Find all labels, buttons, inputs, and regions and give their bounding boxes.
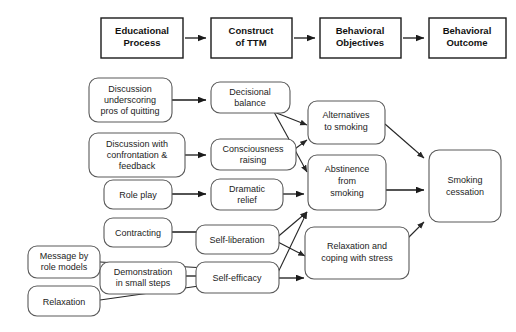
node-label-line2: in small steps [116,278,171,288]
node-discussion-confrontation[interactable]: Discussion with confrontation & feedback [89,133,185,177]
node-abstinence-from-smoking[interactable]: Abstinence from smoking [308,155,386,210]
node-label-line1: Role play [119,190,157,200]
node-role-play[interactable]: Role play [104,180,172,209]
node-label-line2: confrontation & [107,150,168,160]
node-label-line1: Dramatic [229,184,266,194]
node-self-liberation[interactable]: Self-liberation [196,225,279,254]
node-demonstration-small-steps[interactable]: Demonstration in small steps [100,262,186,294]
node-label-line1: Relaxation [43,297,86,307]
node-smoking-cessation[interactable]: Smoking cessation [429,150,501,222]
node-label-line3: feedback [119,161,156,171]
header-label-line1: Construct [229,25,275,36]
arrow-decisional-balance-to-alternatives [274,112,307,125]
node-label-line3: pros of quitting [100,106,159,116]
node-consciousness-raising[interactable]: Consciousness raising [211,139,296,170]
node-decisional-balance[interactable]: Decisional balance [211,82,290,113]
node-label-line2: from [338,176,356,186]
node-label-line2: raising [240,155,267,165]
node-label-line3: smoking [330,188,364,198]
header-row: Educational Process Construct of TTM Beh… [101,18,506,58]
node-label-line1: Discussion [108,84,152,94]
arrow-alternatives-to-smoking-cessation [385,124,424,158]
node-label-line1: Consciousness [222,144,284,154]
node-label-line1: Contracting [115,228,161,238]
node-relaxation[interactable]: Relaxation [28,286,100,316]
diagram-canvas: Educational Process Construct of TTM Beh… [0,0,516,332]
node-relaxation-coping[interactable]: Relaxation and coping with stress [305,227,409,279]
header-behavioral-objectives: Behavioral Objectives [320,18,401,58]
node-label-line2: underscoring [104,95,156,105]
node-label-line1: Alternatives [322,110,370,120]
node-label-line1: Demonstration [114,267,173,277]
column-1-nodes: Discussion underscoring pros of quitting… [28,78,186,316]
node-label-line1: Decisional [229,87,271,97]
header-educational-process: Educational Process [101,18,183,58]
node-label-line1: Self-liberation [209,235,264,245]
header-behavioral-outcome: Behavioral Outcome [429,18,506,58]
node-label-line1: Discussion with [106,139,168,149]
node-label-line1: Relaxation and [327,241,387,251]
header-label-line2: Objectives [336,37,384,48]
column-2-nodes: Decisional balance Consciousness raising… [196,82,296,293]
node-label-line2: balance [234,98,266,108]
node-dramatic-relief[interactable]: Dramatic relief [211,179,283,210]
flowchart-diagram: Educational Process Construct of TTM Beh… [0,0,516,332]
node-message-role-models[interactable]: Message by role models [28,246,100,278]
header-label-line1: Educational [115,25,169,36]
node-self-efficacy[interactable]: Self-efficacy [196,262,279,293]
node-label-line1: Self-efficacy [213,273,262,283]
header-label-line2: of TTM [235,37,266,48]
node-label-line2: to smoking [324,122,368,132]
node-label-line2: role models [41,262,88,272]
node-label-line2: relief [237,195,257,205]
header-label-line1: Behavioral [443,25,492,36]
node-label-line1: Abstinence [325,164,370,174]
node-alternatives-to-smoking[interactable]: Alternatives to smoking [308,101,385,144]
header-label-line2: Outcome [446,37,487,48]
header-construct-of-ttm: Construct of TTM [211,18,292,58]
column-4-nodes: Smoking cessation [429,150,501,222]
node-contracting[interactable]: Contracting [104,218,172,247]
header-label-line2: Process [124,37,161,48]
node-label-line2: cessation [446,187,484,197]
node-discussion-pros[interactable]: Discussion underscoring pros of quitting [89,78,172,122]
node-label-line1: Smoking [447,175,482,185]
node-label-line1: Message by [40,251,89,261]
header-label-line1: Behavioral [336,25,385,36]
node-label-line2: coping with stress [321,253,393,263]
